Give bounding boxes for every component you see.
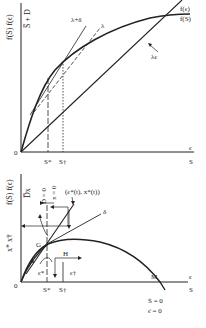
label-eps-dagger: ϵ† bbox=[70, 269, 77, 277]
top-y-tick-label: S̅ + D bbox=[23, 9, 32, 29]
bottom-y-axis-label: f(S) f(ϵ) bbox=[5, 179, 14, 205]
line-lambda bbox=[34, 28, 100, 112]
arrow-down2-icon bbox=[67, 225, 71, 229]
arrow-down3-icon bbox=[53, 274, 57, 278]
bottom-s-star-label: S* bbox=[43, 286, 51, 294]
top-s-dagger-label: S† bbox=[59, 158, 67, 166]
bottom-origin-label: 0 bbox=[14, 282, 18, 290]
top-x-label-S: S bbox=[189, 158, 193, 166]
top-s-star-label: S* bbox=[44, 158, 52, 166]
label-G: G bbox=[36, 241, 41, 249]
line-lambda-delta bbox=[30, 26, 86, 115]
top-origin-label: 0 bbox=[14, 149, 18, 157]
label-lambda: λ bbox=[101, 22, 105, 30]
bottom-x-label-S: S bbox=[189, 286, 193, 294]
label-lambda-delta: λ+δ bbox=[71, 16, 82, 24]
lambda-eps-pointer bbox=[150, 45, 158, 52]
bottom-s-dagger-label: S† bbox=[59, 286, 67, 294]
bottom-panel: f(S) f(ϵ) x* x† D̅x D = 0 x = 0 (ϵ*(t), … bbox=[5, 174, 193, 315]
diagram-canvas: f(S) f(ϵ) S̅ + D λ+δ λ λϵ f(ϵ) f(S) 0 ϵ … bbox=[0, 0, 206, 328]
arrow-up-icon bbox=[38, 214, 42, 218]
label-H: H bbox=[63, 250, 68, 258]
label-eps-dot-zero: ϵ̇ = 0 bbox=[148, 307, 162, 315]
point-arrow-icon bbox=[71, 201, 75, 205]
arrow-left-icon bbox=[21, 224, 25, 228]
label-f-eps: f(ϵ) bbox=[180, 5, 190, 13]
curve-f bbox=[21, 14, 190, 152]
top-panel: f(S) f(ϵ) S̅ + D λ+δ λ λϵ f(ϵ) f(S) 0 ϵ … bbox=[5, 0, 194, 166]
label-M: M bbox=[151, 273, 158, 281]
arrow-left2-icon bbox=[50, 205, 54, 209]
label-point: (ϵ*(t), x*(t)) bbox=[65, 188, 100, 196]
top-x-label-eps: ϵ bbox=[189, 144, 192, 152]
label-D-zero: D = 0 bbox=[40, 187, 48, 204]
top-y-axis-label: f(S) f(ϵ) bbox=[5, 14, 14, 40]
arrow-right-icon bbox=[78, 256, 82, 260]
bottom-y-axis-label2: x* x† bbox=[5, 234, 14, 252]
label-lambda-eps: λϵ bbox=[151, 53, 157, 61]
bottom-x-label-eps: ϵ bbox=[189, 273, 192, 281]
bottom-y-tick-label: D̅x bbox=[23, 188, 32, 198]
phase-arrow-curve-h bbox=[40, 258, 52, 264]
label-eps-star: ϵ* bbox=[38, 269, 45, 277]
label-delta: δ bbox=[103, 208, 107, 216]
label-x-zero: x = 0 bbox=[50, 185, 58, 200]
label-S-dot-zero: Ṡ = 0 bbox=[148, 297, 163, 305]
label-f-S: f(S) bbox=[180, 15, 192, 23]
